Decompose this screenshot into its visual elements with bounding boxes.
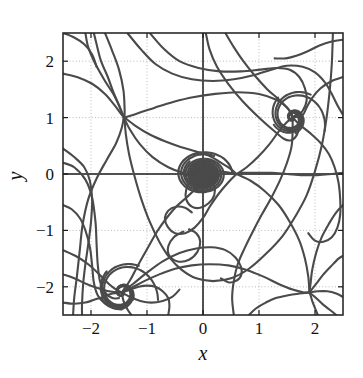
x-tick-label: −1 [138, 319, 156, 338]
spiral-core-center [195, 169, 207, 179]
x-tick-label: 1 [255, 319, 264, 338]
x-tick-label: −2 [82, 319, 100, 338]
y-tick-label: −2 [36, 278, 54, 297]
x-axis-label: x [198, 342, 208, 364]
y-tick-label: 1 [46, 109, 55, 128]
y-tick-label: 0 [46, 165, 55, 184]
x-tick-label: 0 [199, 319, 208, 338]
y-axis-label: y [4, 171, 27, 182]
y-tick-label: 2 [46, 52, 55, 71]
x-tick-label: 2 [311, 319, 320, 338]
phase-portrait-figure: −2−1012 −2−1012 x y [0, 0, 363, 378]
y-tick-label: −1 [36, 221, 54, 240]
